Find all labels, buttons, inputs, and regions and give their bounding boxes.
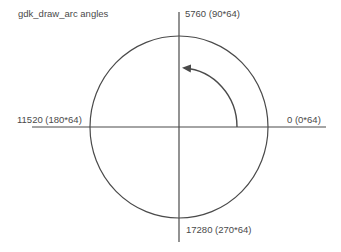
label-0-degrees: 0 (0*64): [287, 114, 321, 125]
label-90-degrees: 5760 (90*64): [185, 8, 240, 19]
arc-angles-diagram: gdk_draw_arc angles 5760 (90*64) 11520 (…: [0, 0, 341, 252]
diagram-title: gdk_draw_arc angles: [18, 8, 109, 19]
label-270-degrees: 17280 (270*64): [186, 224, 252, 235]
label-180-degrees: 11520 (180*64): [17, 114, 82, 125]
angle-arrow-icon: [184, 68, 237, 127]
